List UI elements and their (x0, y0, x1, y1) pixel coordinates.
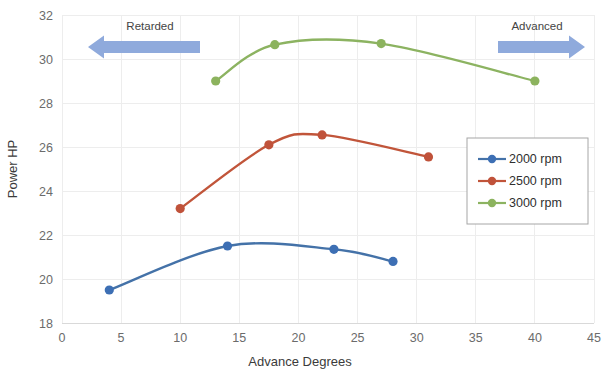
y-tick-label: 30 (39, 53, 53, 67)
x-axis-tick-labels: 0 5 10 15 20 25 30 35 40 45 (59, 331, 601, 345)
legend-label: 2500 rpm (509, 174, 562, 188)
data-point (270, 40, 279, 49)
legend-label: 2000 rpm (509, 152, 562, 166)
advanced-label: Advanced (511, 20, 562, 32)
y-tick-label: 28 (39, 97, 53, 111)
legend-label: 3000 rpm (509, 196, 562, 210)
y-axis-title: Power HP (5, 140, 20, 199)
y-tick-label: 18 (39, 317, 53, 331)
data-point (329, 245, 338, 254)
x-tick-label: 5 (118, 331, 125, 345)
x-tick-label: 10 (173, 331, 187, 345)
x-axis-title: Advance Degrees (248, 354, 352, 369)
x-tick-label: 35 (469, 331, 483, 345)
data-point (530, 76, 539, 85)
data-point (223, 241, 232, 250)
x-tick-label: 25 (351, 331, 365, 345)
x-tick-label: 40 (528, 331, 542, 345)
data-point (388, 257, 397, 266)
legend-marker-icon (488, 199, 496, 207)
legend-marker-icon (488, 177, 496, 185)
legend-marker-icon (488, 155, 496, 163)
data-point (211, 76, 220, 85)
retarded-label: Retarded (126, 20, 173, 32)
chart-canvas: 32 30 28 26 24 22 20 18 0 5 10 15 20 25 … (0, 0, 610, 374)
x-tick-label: 0 (59, 331, 66, 345)
data-point (264, 140, 273, 149)
data-point (424, 152, 433, 161)
chart-legend[interactable]: 2000 rpm 2500 rpm 3000 rpm (467, 138, 588, 224)
y-tick-label: 32 (39, 9, 53, 23)
y-tick-label: 24 (39, 185, 53, 199)
x-tick-label: 20 (291, 331, 305, 345)
x-tick-label: 15 (232, 331, 246, 345)
y-tick-label: 26 (39, 141, 53, 155)
data-point (105, 285, 114, 294)
power-vs-advance-chart: 32 30 28 26 24 22 20 18 0 5 10 15 20 25 … (0, 0, 610, 374)
data-point (176, 204, 185, 213)
y-axis-tick-labels: 32 30 28 26 24 22 20 18 (39, 9, 53, 331)
data-point (317, 130, 326, 139)
x-tick-label: 45 (587, 331, 601, 345)
data-point (377, 39, 386, 48)
y-tick-label: 22 (39, 229, 53, 243)
x-tick-label: 30 (410, 331, 424, 345)
y-tick-label: 20 (39, 273, 53, 287)
